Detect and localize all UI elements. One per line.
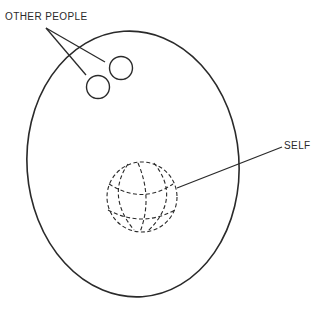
self-leader-line (177, 147, 282, 188)
self-label: SELF (284, 141, 311, 151)
other-people-leader-line-1 (46, 28, 105, 62)
other-people-leader-line-2 (46, 28, 86, 75)
other-people-label: OTHER PEOPLE (5, 12, 88, 22)
other-person-circle-2 (87, 76, 110, 99)
diagram-canvas (0, 0, 323, 313)
other-person-circle-1 (110, 57, 133, 80)
self-globe-icon (107, 162, 177, 232)
